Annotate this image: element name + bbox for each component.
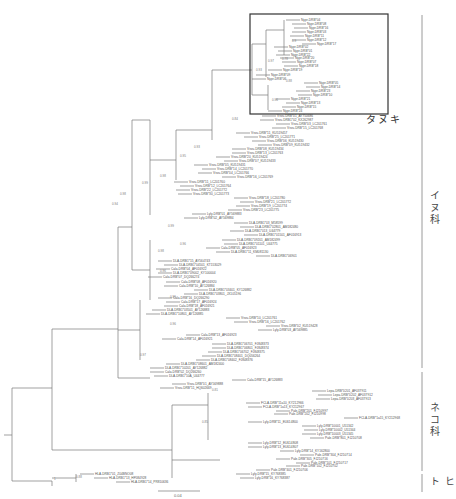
bootstrap-value: 0.88 xyxy=(286,79,292,83)
bootstrap-value: 0.94 xyxy=(112,202,118,206)
bootstrap-value: 0.98 xyxy=(158,249,164,253)
felidae-label: ネコ科 xyxy=(426,402,441,438)
leaf-label: Nypr-DRB*24 xyxy=(283,109,303,113)
bootstrap-value: 0.9 xyxy=(292,39,297,43)
bootstrap-value: 0.99 xyxy=(168,224,174,228)
leaf-label: Lyly-DRB*11_EU614800 xyxy=(263,420,298,424)
human-label: ヒト xyxy=(426,476,456,499)
leaf-label: Cala-DRB*07_DQ266274 xyxy=(163,275,200,279)
bootstrap-value: 0.99 xyxy=(170,295,176,299)
bootstrap-value: 0.88 xyxy=(76,475,82,479)
bootstrap-value: 0.99 xyxy=(142,181,148,185)
leaf-label: Nypr-DRB*17 xyxy=(317,42,337,46)
leaf-label: Lepa-DRB*0203_AF037913 xyxy=(331,397,371,401)
leaf-label: Lyly-DRB*16_KY768387 xyxy=(255,476,290,480)
bootstrap-value: 0.93 xyxy=(256,68,262,72)
leaf-labels: Nypr-DRB*04Nypr-DRB*08Nypr-DRB*16Nypr-DR… xyxy=(80,18,400,484)
bootstrap-value: 0.97 xyxy=(268,59,274,63)
leaf-label: Pale-DRB*801_FJ210708 xyxy=(325,436,362,440)
leaf-label: Vvvu-DRB*30_LC201773 xyxy=(193,192,229,196)
leaf-label: DLA-DRB1*06901 xyxy=(271,254,297,258)
bootstrap-value: 0.97 xyxy=(140,353,146,357)
bootstrap-value: 0.98 xyxy=(160,174,166,178)
bootstrap-value: 0.85 xyxy=(202,420,208,424)
bootstrap-value: 0.81 xyxy=(212,388,218,392)
canidae-label: イヌ科 xyxy=(426,190,441,226)
leaf-label: Vvvu-DRB*16_LC201762 xyxy=(249,320,285,324)
bootstrap-value: 0.93 xyxy=(194,145,200,149)
leaf-label: Nypr-DRB*10 xyxy=(313,93,333,97)
leaf-label: Cala-DRB*15_AY126883 xyxy=(247,378,283,382)
leaf-label: Vvvu-DRB*11_HQ602669 xyxy=(175,386,212,390)
tanuki-label: タヌキ xyxy=(366,111,402,126)
leaf-label: Pale-DRB*202_FJ210998 xyxy=(289,412,326,416)
leaf-label: DLA-DRB1*10A_U44777 xyxy=(169,374,205,378)
bootstrap-value: 0.78 xyxy=(282,57,288,61)
scale-bar-label: 0.04 xyxy=(174,493,182,498)
bootstrap-value: 0.84 xyxy=(232,117,238,121)
bootstrap-value: 0.96 xyxy=(170,322,176,326)
leaf-label: DLA-DRB1*01501_AF016913 xyxy=(259,233,302,237)
bootstrap-value: 0.96 xyxy=(160,269,166,273)
leaf-label: Vvvu-DRB*16_LC201769 xyxy=(237,175,273,179)
leaf-label: FCLA-DRB*1a15_KY212968 xyxy=(359,416,400,420)
leaf-label: Vvvu-DRB*23_LC201775 xyxy=(243,208,279,212)
leaf-label: Lyly-DRB*13_EU614807 xyxy=(263,445,298,449)
leaf-label: DLA-DRB1*10801_AY126885 xyxy=(161,312,204,316)
leaf-label: HLA-DRB1*14_PR810636 xyxy=(131,480,169,484)
leaf-label: DLA-DRB1*11_KM081130 xyxy=(231,250,268,254)
leaf-label: Nypr-DRB*19 xyxy=(283,68,303,72)
leaf-label: Lyly-DRB*02_AY569884 xyxy=(199,216,234,220)
bootstrap-value: 0.96 xyxy=(180,242,186,246)
leaf-label: Cala-DRB*14_AF016921 xyxy=(177,337,213,341)
bootstrap-value: 0.96 xyxy=(272,98,278,102)
leaf-label: Vvvu-DRB*15_LC201768 xyxy=(287,126,323,130)
leaf-label: Nypr-DRB*06 xyxy=(267,77,287,81)
bootstrap-value: 0.98 xyxy=(120,192,126,196)
leaf-label: Lyly-DRB*03_AY569885 xyxy=(273,328,308,332)
bootstrap-value: 0.95 xyxy=(180,154,186,158)
bootstrap-value: 1 xyxy=(54,477,56,481)
